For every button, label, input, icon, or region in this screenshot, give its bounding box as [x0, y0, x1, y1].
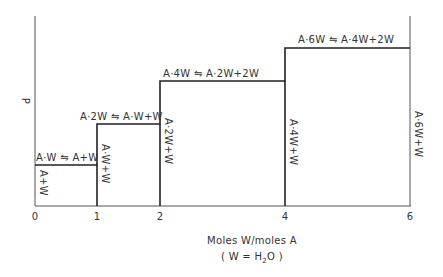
- region-label-0: A+W: [38, 170, 49, 196]
- region-label-2: A·2W+W: [163, 118, 174, 164]
- equilibrium-label-3: A·4W ⇋ A·2W+2W: [163, 68, 259, 79]
- equilibrium-label-2: A·2W ⇋ A·W+W: [80, 111, 163, 122]
- equilibrium-label-1: A·W ⇋ A+W: [36, 152, 98, 163]
- x-axis-sublabel: ( W = H2O ): [221, 251, 283, 265]
- x-tick-0: 0: [32, 211, 38, 222]
- x-tick-6: 6: [407, 211, 413, 222]
- equilibrium-label-4: A·6W ⇋ A·4W+2W: [298, 34, 394, 45]
- region-label-4: A·6W+W: [413, 111, 424, 157]
- x-tick-4: 4: [282, 211, 288, 222]
- x-tick-2: 2: [157, 211, 163, 222]
- region-label-1: A·W+W: [100, 144, 111, 184]
- x-axis-label: Moles W/moles A: [207, 235, 297, 246]
- step-curve: [35, 48, 410, 165]
- region-label-3: A·4W+W: [288, 119, 299, 165]
- x-tick-1: 1: [94, 211, 100, 222]
- y-axis-label: P: [20, 98, 31, 104]
- phase-diagram: P A·W ⇋ A+W A·2W ⇋ A·W+W A·4W ⇋ A·2W+2W …: [0, 0, 443, 277]
